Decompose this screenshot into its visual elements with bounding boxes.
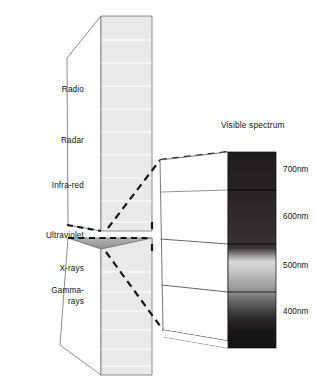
wavelength-label-700nm: 700nm — [283, 165, 309, 174]
upper-prism-front-face — [101, 16, 152, 231]
visible-spectrum-bar — [228, 152, 276, 348]
figure-canvas — [0, 0, 327, 392]
visible-spectrum-panel — [160, 152, 276, 348]
band-label-ultraviolet: Ultraviolet — [0, 231, 84, 242]
lower-prism-front-face — [101, 238, 152, 375]
wavelength-label-600nm: 600nm — [283, 212, 309, 221]
upper-prism-side-face — [67, 16, 101, 231]
wavelength-label-400nm: 400nm — [283, 307, 309, 316]
wavelength-label-500nm: 500nm — [283, 261, 309, 270]
band-label-x-rays: X-rays — [4, 264, 84, 275]
band-label-gamma-rays: Gamma- rays — [4, 286, 84, 307]
electromagnetic-spectrum-figure: Visible spectrum Radio Radar Infra-red U… — [0, 0, 327, 392]
band-label-radar: Radar — [4, 136, 84, 147]
panel-side-face — [160, 152, 228, 341]
upper-spectrum-prism — [67, 16, 152, 231]
band-label-radio: Radio — [4, 85, 84, 96]
visible-spectrum-title: Visible spectrum — [221, 120, 285, 130]
band-label-infra-red: Infra-red — [4, 181, 84, 192]
